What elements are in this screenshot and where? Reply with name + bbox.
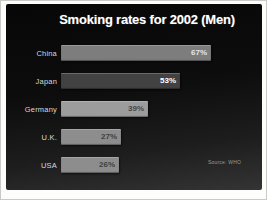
category-label: U.K. [6,133,61,142]
value-label: 67% [191,45,207,61]
category-label: Japan [6,77,61,86]
bar-row: China67% [6,45,211,61]
bar: 67% [61,45,211,61]
bar: 26% [61,157,119,173]
slide-screenshot: Smoking rates for 2002 (Men) China67%Jap… [0,0,267,200]
category-label: China [6,49,61,58]
value-label: 27% [101,129,117,145]
bar: 39% [61,101,148,117]
bar: 53% [61,73,180,89]
bar-row: U.K.27% [6,129,121,145]
value-label: 53% [160,73,176,89]
bar-row: Germany39% [6,101,148,117]
source-note: Source: WHO [208,159,241,165]
bar: 27% [61,129,121,145]
value-label: 39% [128,101,144,117]
bar-row: Japan53% [6,73,180,89]
value-label: 26% [99,157,115,173]
category-label: Germany [6,105,61,114]
chart-title: Smoking rates for 2002 (Men) [34,12,260,27]
bar-row: USA26% [6,157,119,173]
chart-slide: Smoking rates for 2002 (Men) China67%Jap… [6,4,262,190]
category-label: USA [6,161,61,170]
